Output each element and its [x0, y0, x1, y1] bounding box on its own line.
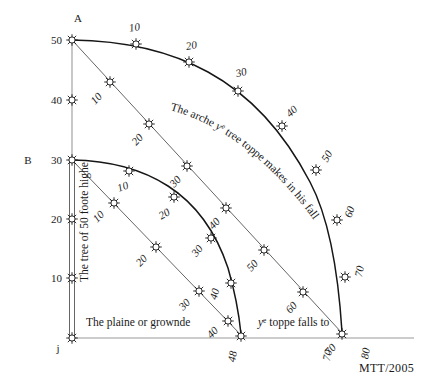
canvas-background: [0, 0, 434, 387]
outer-arc-point-20: [184, 57, 195, 68]
ground-right-caption: ye toppe falls to: [257, 316, 330, 330]
inner-ray-point-10: [109, 198, 120, 209]
outer-ray-point-60: [298, 287, 309, 298]
y-tick-marker-40: [67, 95, 78, 106]
mid-label-B: B: [24, 154, 31, 166]
outer-arc-point-30: [233, 86, 244, 97]
y-tick-marker-30: [67, 155, 78, 166]
y-tick-marker-10: [67, 273, 78, 284]
outer-arc-point-50: [311, 165, 322, 176]
inner-arc-point-10: [124, 166, 135, 177]
y-tick-marker-50: [67, 35, 78, 46]
outer-ray-point-20: [144, 119, 155, 130]
ground-caption: The plaine or grownde: [86, 316, 190, 329]
origin-label-j: j: [55, 342, 59, 354]
inner-arc-point-48: [236, 331, 247, 342]
inner-ray-point-30: [194, 286, 205, 297]
outer-ray-point-30: [182, 161, 193, 172]
outer-arc-point-10: [131, 39, 142, 50]
outer-ray-point-40: [221, 203, 232, 214]
outer-ray-point-70: [337, 329, 348, 340]
outer-arc-point-70: [340, 272, 351, 283]
inner-arc-point-40: [226, 278, 237, 289]
outer-arc-point-60: [332, 215, 343, 226]
y-axis-label-30: 30: [51, 154, 63, 166]
inner-ray-point-20: [151, 242, 162, 253]
inner-arc-point-20: [169, 192, 180, 203]
inner-ray-point-40: [223, 316, 234, 327]
outer-ray-point-50: [259, 245, 270, 256]
trunk-caption: The tree of 50 foote highe: [78, 162, 91, 282]
outer-ray-point-10: [105, 77, 116, 88]
y-axis-label-20: 20: [51, 213, 63, 225]
y-axis-label-40: 40: [51, 94, 63, 106]
outer-arc-point-40: [277, 121, 288, 132]
figure-canvas: 50 40 30 20 10 A B j 10 20 30 40 50 60 7…: [0, 0, 434, 387]
inner-arc-point-30: [206, 233, 217, 244]
origin-marker: [67, 333, 78, 344]
y-axis-label-10: 10: [51, 272, 63, 284]
apex-label-A: A: [74, 12, 82, 24]
ground-right-post: toppe falls to: [266, 316, 329, 329]
y-axis-label-50: 50: [51, 34, 63, 46]
y-tick-marker-20: [67, 214, 78, 225]
credit-label: MTT/2005: [359, 361, 414, 375]
ballistics-figure: 50 40 30 20 10 A B j 10 20 30 40 50 60 7…: [0, 0, 434, 387]
